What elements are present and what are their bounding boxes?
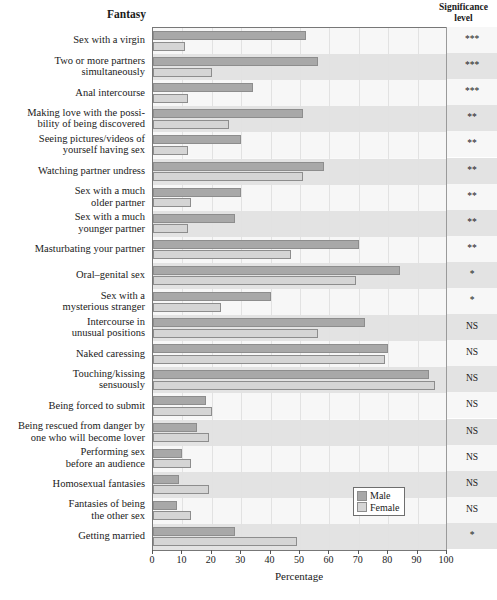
bar-female — [153, 485, 209, 494]
bar-female — [153, 68, 212, 77]
bar-male — [153, 318, 365, 327]
bar-male — [153, 214, 235, 223]
bar-female — [153, 459, 191, 468]
category-label: Homosexual fantasies — [0, 478, 150, 490]
significance-value: *** — [447, 34, 497, 44]
category-label-line: Sex with a — [0, 290, 145, 302]
bar-female — [153, 198, 191, 207]
legend-swatch-male-icon — [357, 491, 367, 501]
category-label: Watching partner undress — [0, 165, 150, 177]
bar-male — [153, 449, 182, 458]
significance-value: ** — [447, 138, 497, 148]
bar-female — [153, 303, 221, 312]
category-label: Making love with the possi-bility of bei… — [0, 107, 150, 130]
category-label-line: mysterious stranger — [0, 301, 145, 313]
significance-value: ** — [447, 165, 497, 175]
category-label-line: Performing sex — [0, 446, 145, 458]
figure-root: Fantasy Significance level *************… — [0, 0, 497, 600]
category-label-line: Sex with a virgin — [0, 34, 145, 46]
legend: Male Female — [353, 487, 405, 516]
gridline — [418, 28, 419, 550]
significance-value: ** — [447, 191, 497, 201]
category-label-line: yourself having sex — [0, 144, 145, 156]
category-label: Being forced to submit — [0, 400, 150, 412]
category-label-line: Touching/kissing — [0, 368, 145, 380]
axis-tick-label: 40 — [255, 554, 285, 565]
category-label: Sex with a mucholder partner — [0, 185, 150, 208]
bar-female — [153, 433, 209, 442]
category-label-line: before an audience — [0, 458, 145, 470]
significance-header-line-2: level — [430, 13, 497, 24]
legend-swatch-female-icon — [357, 502, 367, 512]
bar-female — [153, 42, 185, 51]
significance-value: * — [447, 295, 497, 305]
bar-male — [153, 188, 241, 197]
category-label-line: Oral–genital sex — [0, 269, 145, 281]
bar-male — [153, 109, 303, 118]
significance-value: NS — [447, 504, 497, 514]
category-label-line: Watching partner undress — [0, 165, 145, 177]
legend-label-female: Female — [370, 502, 399, 514]
significance-value: * — [447, 530, 497, 540]
axis-tick-label: 70 — [343, 554, 373, 565]
category-label: Sex with a muchyounger partner — [0, 211, 150, 234]
category-label-line: sensuously — [0, 379, 145, 391]
significance-column-header: Significance level — [430, 2, 497, 24]
plot-area — [152, 27, 447, 551]
significance-header-line-1: Significance — [430, 2, 497, 13]
category-label-line: Masturbating your partner — [0, 243, 145, 255]
category-label-line: one who will become lover — [0, 432, 145, 444]
bar-male — [153, 292, 271, 301]
category-label-line: Making love with the possi- — [0, 107, 145, 119]
category-label-line: simultaneously — [0, 66, 145, 78]
category-label: Masturbating your partner — [0, 243, 150, 255]
bar-male — [153, 501, 177, 510]
bar-male — [153, 423, 197, 432]
significance-value: ** — [447, 217, 497, 227]
gridline — [300, 28, 301, 550]
gridline — [182, 28, 183, 550]
gridline — [388, 28, 389, 550]
category-label-line: Seeing pictures/videos of — [0, 133, 145, 145]
bar-female — [153, 172, 303, 181]
axis-tick-label: 90 — [402, 554, 432, 565]
axis-tick-label: 80 — [372, 554, 402, 565]
bar-male — [153, 475, 179, 484]
bar-female — [153, 329, 318, 338]
category-label: Oral–genital sex — [0, 269, 150, 281]
bar-female — [153, 94, 188, 103]
significance-value: *** — [447, 60, 497, 70]
category-label: Sex with a virgin — [0, 34, 150, 46]
significance-value: NS — [447, 347, 497, 357]
category-label-line: Being forced to submit — [0, 400, 145, 412]
category-label: Anal intercourse — [0, 87, 150, 99]
category-column-header: Fantasy — [0, 8, 152, 20]
bar-male — [153, 344, 388, 353]
axis-tick-label: 20 — [196, 554, 226, 565]
bar-male — [153, 240, 359, 249]
category-label: Getting married — [0, 530, 150, 542]
category-label: Fantasies of beingthe other sex — [0, 498, 150, 521]
category-label: Being rescued from danger byone who will… — [0, 420, 150, 443]
category-label: Touching/kissingsensuously — [0, 368, 150, 391]
axis-tick-label: 10 — [166, 554, 196, 565]
gridline — [212, 28, 213, 550]
axis-tick-label: 60 — [313, 554, 343, 565]
bar-female — [153, 381, 435, 390]
gridline — [241, 28, 242, 550]
category-label: Performing sexbefore an audience — [0, 446, 150, 469]
gridline — [359, 28, 360, 550]
category-label-line: Fantasies of being — [0, 498, 145, 510]
bar-female — [153, 276, 356, 285]
category-label-line: Anal intercourse — [0, 87, 145, 99]
bar-female — [153, 120, 229, 129]
axis-tick-label: 0 — [137, 554, 167, 565]
category-label-line: older partner — [0, 197, 145, 209]
category-label-line: unusual positions — [0, 327, 145, 339]
significance-value: NS — [447, 478, 497, 488]
axis-tick-label: 100 — [431, 554, 461, 565]
legend-item-female: Female — [357, 502, 399, 514]
axis-tick-label: 50 — [284, 554, 314, 565]
significance-value: NS — [447, 373, 497, 383]
category-label: Seeing pictures/videos ofyourself having… — [0, 133, 150, 156]
